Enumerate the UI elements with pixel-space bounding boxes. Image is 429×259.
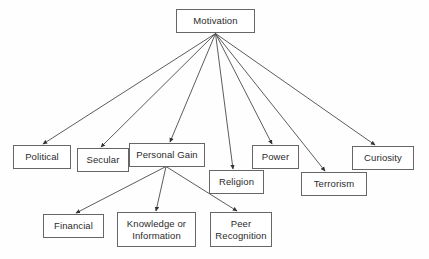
node-knowledge-or-information[interactable]: Knowledge orInformation bbox=[117, 212, 196, 247]
edge-motivation-to-secular bbox=[101, 34, 216, 148]
node-label-curiosity: Curiosity bbox=[362, 152, 404, 164]
edge-personal-gain-to-knowledge-or-information bbox=[156, 167, 166, 212]
node-label-financial: Financial bbox=[52, 220, 95, 232]
node-motivation[interactable]: Motivation bbox=[176, 9, 255, 33]
node-curiosity[interactable]: Curiosity bbox=[352, 146, 414, 170]
edge-motivation-to-power bbox=[216, 34, 273, 145]
node-financial[interactable]: Financial bbox=[43, 214, 104, 238]
edge-personal-gain-to-financial bbox=[76, 167, 166, 214]
node-label-religion: Religion bbox=[217, 176, 256, 188]
edge-motivation-to-political bbox=[43, 34, 216, 145]
edge-motivation-to-curiosity bbox=[216, 34, 376, 146]
diagram-canvas: MotivationPoliticalSecularPersonal GainR… bbox=[0, 0, 429, 259]
node-label-motivation: Motivation bbox=[191, 15, 239, 27]
node-label-power: Power bbox=[260, 151, 291, 163]
edge-motivation-to-religion bbox=[216, 34, 234, 170]
node-political[interactable]: Political bbox=[13, 145, 71, 169]
edge-motivation-to-personal-gain bbox=[170, 34, 216, 143]
node-label-terrorism: Terrorism bbox=[312, 178, 356, 190]
node-label-personal-gain: Personal Gain bbox=[134, 149, 200, 161]
node-power[interactable]: Power bbox=[252, 145, 299, 169]
node-label-political: Political bbox=[23, 151, 61, 163]
node-secular[interactable]: Secular bbox=[77, 148, 129, 172]
node-personal-gain[interactable]: Personal Gain bbox=[129, 143, 205, 167]
node-terrorism[interactable]: Terrorism bbox=[301, 172, 367, 196]
node-label-peer-recognition: PeerRecognition bbox=[213, 218, 268, 241]
node-peer-recognition[interactable]: PeerRecognition bbox=[210, 212, 272, 247]
node-label-knowledge-or-information: Knowledge orInformation bbox=[125, 218, 188, 241]
node-label-secular: Secular bbox=[85, 154, 122, 166]
node-religion[interactable]: Religion bbox=[209, 170, 264, 194]
